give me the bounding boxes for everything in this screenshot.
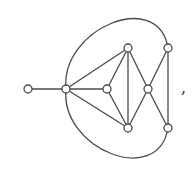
node-G [144,85,152,93]
edge-C-G [128,48,148,89]
edge-B-C [66,48,128,89]
edge-G-H [148,89,168,128]
edge-G-F [148,48,168,89]
edge-C-D [107,48,128,89]
trailing-comma: , [181,80,186,96]
graph-diagram [0,0,195,174]
node-F [164,44,172,52]
edge-E-G [128,89,148,128]
node-A [24,85,32,93]
node-B [62,85,70,93]
node-C [124,44,132,52]
edge-B-E [66,89,128,128]
node-E [124,124,132,132]
node-group [24,44,172,132]
node-H [164,124,172,132]
node-D [103,85,111,93]
